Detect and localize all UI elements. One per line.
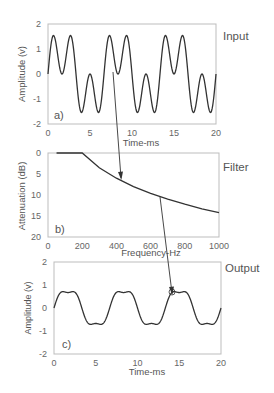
tick-label: 2 xyxy=(42,257,47,267)
tick-label: 5 xyxy=(87,128,92,138)
filter-title: Filter xyxy=(223,161,249,173)
input-waveform xyxy=(48,36,216,113)
tick-label: 1 xyxy=(36,44,41,54)
output-waveform xyxy=(54,292,221,325)
chart-figure: 210-1-2 05101520 Amplitude (v) Time-ms I… xyxy=(0,0,274,393)
y-axis-label-c: Amplitude (v) xyxy=(23,281,33,334)
tick-label: 0 xyxy=(36,69,41,79)
tick-label: 15 xyxy=(174,358,184,368)
x-axis-label-a: Time-ms xyxy=(123,137,160,148)
y-tick-labels-b: 05101520 xyxy=(31,148,41,242)
tick-label: -2 xyxy=(39,349,47,359)
output-title: Output xyxy=(225,262,260,274)
tick-label: 1 xyxy=(42,280,47,290)
tick-label: 0 xyxy=(45,128,50,138)
plot-frame-b xyxy=(48,153,219,237)
tick-label: 15 xyxy=(31,211,41,221)
tick-label: -1 xyxy=(39,326,47,336)
panel-filter: 05101520 02004006008001000 Attenuation (… xyxy=(16,148,249,258)
tick-label: 20 xyxy=(211,128,221,138)
x-axis-label-c: Time-ms xyxy=(129,366,166,377)
tick-label: 1000 xyxy=(209,241,229,251)
tick-label: -2 xyxy=(33,119,41,129)
tick-label: 0 xyxy=(45,241,50,251)
arrow-input-to-filter xyxy=(113,72,123,180)
tick-label: 5 xyxy=(36,169,41,179)
panel-label-b: b) xyxy=(55,223,65,235)
tick-label: 0 xyxy=(42,303,47,313)
tick-label: 20 xyxy=(31,232,41,242)
tick-label: 20 xyxy=(216,358,226,368)
tick-label: 10 xyxy=(31,190,41,200)
x-axis-label-b: Frequency-Hz xyxy=(121,247,181,258)
filter-response-curve xyxy=(57,153,219,213)
tick-label: 200 xyxy=(75,241,90,251)
y-axis-label-b: Attenuation (dB) xyxy=(16,162,27,231)
tick-label: -1 xyxy=(33,94,41,104)
panel-label-a: a) xyxy=(54,109,64,121)
tick-label: 0 xyxy=(36,148,41,158)
tick-label: 2 xyxy=(36,19,41,29)
y-tick-labels-a: 210-1-2 xyxy=(33,19,41,129)
panel-output: 210-1-2 05101520 Amplitude (v) Time-ms O… xyxy=(23,257,260,377)
y-tick-labels-c: 210-1-2 xyxy=(39,257,47,359)
tick-label: 15 xyxy=(169,128,179,138)
input-title: Input xyxy=(223,30,249,42)
panel-input: 210-1-2 05101520 Amplitude (v) Time-ms I… xyxy=(16,19,249,148)
tick-label: 5 xyxy=(93,358,98,368)
y-axis-label-a: Amplitude (v) xyxy=(16,46,27,102)
tick-label: 0 xyxy=(51,358,56,368)
panel-label-c: c) xyxy=(62,338,71,350)
arrow-filter-to-output xyxy=(160,197,175,295)
